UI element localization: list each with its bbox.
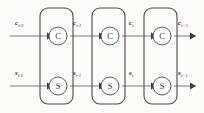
edge-label-c-t-sub: t bbox=[132, 23, 133, 28]
edge-label-s-t-minus-1: st-1 bbox=[73, 70, 81, 77]
arrowhead-c-output bbox=[190, 33, 196, 40]
timestep-block-2[interactable]: C S bbox=[92, 8, 125, 104]
edge-label-s-t-minus-1-sub: t-1 bbox=[76, 73, 81, 78]
edge-label-c-t-minus-1: ct-1 bbox=[73, 20, 81, 27]
c-node-3-label: C bbox=[159, 31, 165, 41]
edge-label-s-t-minus-2: st-2 bbox=[15, 70, 23, 77]
arrowheads bbox=[47, 33, 196, 90]
edge-label-c-t-minus-2-sub: t-2 bbox=[18, 23, 23, 28]
edge-label-s-t-plus-1-sub: t+1 bbox=[181, 73, 188, 78]
s-node-3-label: S bbox=[160, 81, 165, 91]
edge-label-s-t-plus-1: st+1 bbox=[178, 70, 187, 77]
figure-canvas: C S C S C S ct-2 ct-1 ct ct+1 bbox=[0, 0, 204, 113]
edge-label-c-t-plus-1-sub: t+1 bbox=[181, 23, 188, 28]
timestep-block-3[interactable]: C S bbox=[144, 8, 177, 104]
edge-label-c-t: ct bbox=[129, 20, 133, 27]
edge-label-s-t-sub: t bbox=[132, 73, 133, 78]
s-node-2-label: S bbox=[108, 81, 113, 91]
s-node-1-label: S bbox=[56, 81, 61, 91]
edge-label-s-t-minus-2-sub: t-2 bbox=[18, 73, 23, 78]
timestep-block-1[interactable]: C S bbox=[40, 8, 73, 104]
arrowhead-s-output bbox=[190, 83, 196, 90]
edge-label-c-t-minus-1-sub: t-1 bbox=[76, 23, 81, 28]
diagram-svg: C S C S C S bbox=[0, 0, 204, 113]
edge-label-s-t: st bbox=[129, 70, 133, 77]
c-node-2-label: C bbox=[107, 31, 113, 41]
c-node-1-label: C bbox=[55, 31, 61, 41]
edge-label-c-t-minus-2: ct-2 bbox=[15, 20, 23, 27]
edge-label-c-t-plus-1: ct+1 bbox=[178, 20, 188, 27]
